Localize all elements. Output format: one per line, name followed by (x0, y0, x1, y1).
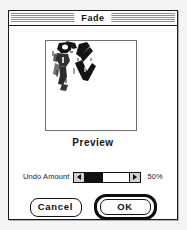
slider-right-arrow-icon[interactable] (129, 173, 140, 182)
slider-left-arrow-icon[interactable] (74, 173, 85, 182)
ok-default-ring: OK (94, 194, 157, 220)
dialog-body: Preview Undo Amount 50% (9, 26, 177, 219)
undo-amount-slider[interactable] (73, 172, 141, 183)
dialog-button-row: Cancel OK (9, 194, 177, 220)
page-title: Fade (81, 14, 104, 23)
preview-caption-label: Preview (9, 138, 177, 148)
preview-artwork-image (46, 41, 102, 95)
undo-amount-row: Undo Amount 50% (23, 170, 171, 184)
right-arrow-glyph (133, 174, 137, 180)
slider-track[interactable] (85, 173, 129, 182)
desktop-background: Fade (0, 0, 187, 230)
preview-image-frame (45, 40, 137, 131)
dialog-titlebar[interactable]: Fade (9, 11, 177, 26)
undo-amount-value: 50% (148, 173, 163, 181)
undo-amount-label: Undo Amount (23, 173, 70, 181)
slider-thumb[interactable] (102, 173, 112, 182)
dialog-title-container: Fade (74, 11, 111, 26)
left-arrow-glyph (77, 174, 81, 180)
ok-button[interactable]: OK (100, 199, 151, 215)
fade-dialog: Fade (8, 10, 178, 220)
cancel-button[interactable]: Cancel (30, 198, 82, 217)
